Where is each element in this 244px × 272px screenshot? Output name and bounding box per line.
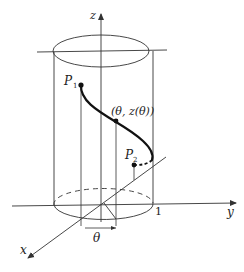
p1-label: P	[63, 74, 73, 88]
y-axis-label: y	[226, 205, 234, 219]
curve-point-label: (θ, z(θ))	[111, 105, 154, 118]
p1-subscript: 1	[73, 82, 77, 90]
x-axis-label: x	[20, 243, 27, 257]
unit-radius-label: 1	[155, 205, 162, 218]
top-plane-line	[37, 50, 167, 52]
helical-curve-hidden	[135, 160, 152, 165]
y-axis	[12, 203, 236, 206]
point-p1	[78, 82, 83, 87]
point-curve	[114, 119, 119, 124]
p2-subscript: 2	[133, 156, 137, 164]
z-axis-label: z	[89, 9, 96, 22]
cylinder-diagram: z y x P 1 P 2 (θ, z(θ)) 1 θ	[0, 0, 244, 272]
theta-label: θ	[93, 231, 101, 245]
radius-line	[104, 203, 116, 219]
